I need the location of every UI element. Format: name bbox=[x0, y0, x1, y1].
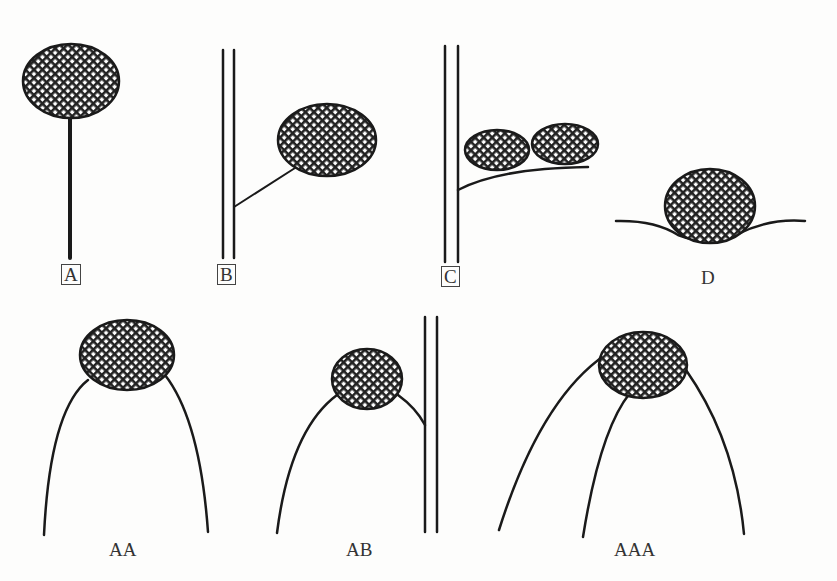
label-aa: AA bbox=[109, 540, 136, 559]
label-b: B bbox=[217, 264, 236, 285]
panel-aa-figure bbox=[44, 320, 208, 535]
label-d: D bbox=[701, 268, 715, 287]
panel-a-figure bbox=[23, 44, 119, 258]
diagram-canvas bbox=[0, 0, 837, 581]
label-a: A bbox=[61, 264, 81, 285]
panel-b-figure bbox=[223, 50, 376, 258]
panel-d-figure bbox=[616, 169, 805, 243]
label-aaa: AAA bbox=[614, 540, 655, 559]
panel-aaa-figure bbox=[499, 332, 744, 537]
panel-c-figure bbox=[445, 46, 598, 262]
label-ab: AB bbox=[346, 540, 372, 559]
panel-ab-figure bbox=[277, 317, 437, 533]
label-c: C bbox=[441, 266, 460, 287]
